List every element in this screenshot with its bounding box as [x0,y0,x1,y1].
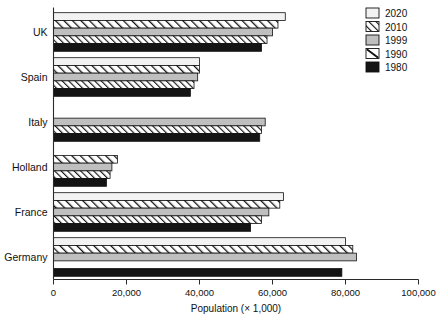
bar-spain-1990 [54,81,195,89]
legend-swatch-2010 [366,22,379,32]
bar-holland-1999 [54,163,112,171]
category-label-germany: Germany [4,251,48,263]
legend-swatch-2020 [366,8,379,18]
bar-germany-1999 [54,253,357,261]
legend-swatch-1980 [366,62,379,72]
legend-label-2020: 2020 [385,8,408,19]
chart-canvas: 020,00040,00060,00080,000100,000UKSpainI… [0,0,444,316]
legend-label-1999: 1999 [385,35,408,46]
bar-italy-1999 [54,118,266,126]
category-label-italy: Italy [28,116,48,128]
x-tick-label-1: 20,000 [112,287,141,298]
bar-spain-1999 [54,73,198,81]
plot-area [54,13,357,277]
bar-italy-1990 [54,126,262,134]
bar-france-1980 [54,224,251,232]
bar-holland-2010 [54,155,118,163]
legend-swatch-1999 [366,35,379,45]
category-label-france: France [15,206,48,218]
bar-germany-1980 [54,269,342,277]
bar-france-2020 [54,193,284,201]
x-tick-label-4: 80,000 [331,287,360,298]
legend-label-1990: 1990 [385,49,408,60]
chart-legend: 20202010199919901980 [366,8,408,73]
bar-uk-1990 [54,36,268,44]
population-bar-chart: 020,00040,00060,00080,000100,000UKSpainI… [0,0,444,316]
bar-uk-1999 [54,28,273,36]
legend-label-2010: 2010 [385,22,408,33]
bar-spain-2020 [54,58,200,66]
bar-spain-1980 [54,89,191,97]
x-axis-title: Population (× 1,000) [191,303,281,314]
legend-label-1980: 1980 [385,62,408,73]
bar-uk-1980 [54,44,262,52]
x-tick-label-2: 40,000 [185,287,214,298]
x-tick-label-0: 0 [51,287,56,298]
category-label-uk: UK [33,26,48,38]
x-tick-label-5: 100,000 [401,287,435,298]
bar-italy-1980 [54,134,260,142]
bar-holland-1980 [54,179,107,187]
bar-spain-2010 [54,65,200,73]
bar-holland-1990 [54,171,111,179]
x-tick-label-3: 60,000 [258,287,287,298]
bar-uk-2010 [54,20,278,28]
bar-france-2010 [54,200,280,208]
category-label-spain: Spain [21,71,48,83]
bar-uk-2020 [54,13,286,21]
bar-germany-2010 [54,245,353,253]
bar-germany-2020 [54,238,346,246]
bar-france-1990 [54,216,262,224]
bar-france-1999 [54,208,269,216]
category-label-holland: Holland [12,161,48,173]
